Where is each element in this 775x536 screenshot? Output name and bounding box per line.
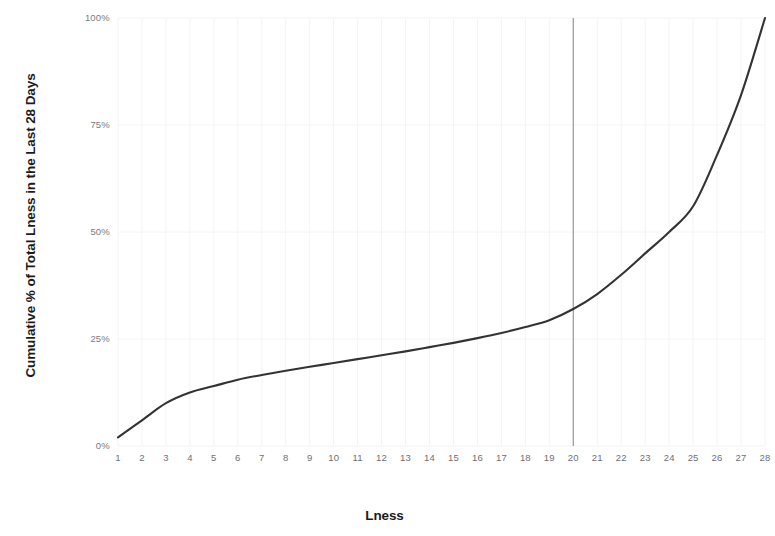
cumulative-line-series [118, 18, 765, 437]
x-axis-title: Lness [0, 508, 769, 523]
